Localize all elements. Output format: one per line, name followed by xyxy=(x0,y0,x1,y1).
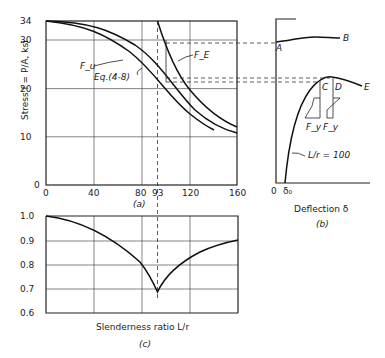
xtick-0: 0 xyxy=(43,188,49,198)
ctick-1.0: 1.0 xyxy=(20,211,35,221)
panel-b: L/r = 100 A B C D E F_y F_y 0 δ₀ Deflect… xyxy=(271,19,370,229)
slenderness-label: Slenderness ratio L/r xyxy=(96,322,189,332)
fu-curve xyxy=(46,21,237,133)
ab-curve xyxy=(276,37,340,42)
deflection-label: Deflection δ xyxy=(294,204,349,214)
ctick-0.8: 0.8 xyxy=(20,260,35,270)
ytick-34: 34 xyxy=(20,16,32,26)
fy-label-d: F_y xyxy=(323,122,339,132)
fy-label-c: F_y xyxy=(306,122,322,132)
point-b: B xyxy=(343,33,349,43)
ytick-0: 0 xyxy=(34,180,40,190)
point-e: E xyxy=(364,82,370,92)
xtick-93: 93 xyxy=(152,188,163,198)
eq48-label: Eq.(4-8) xyxy=(94,72,130,82)
point-d: D xyxy=(335,82,342,92)
panel-b-caption: (b) xyxy=(316,219,329,229)
ctick-0.9: 0.9 xyxy=(20,236,35,246)
y-axis-label: Stress f = P/A, ksi xyxy=(20,40,30,120)
origin-label: 0 xyxy=(271,186,277,196)
eq48-curve xyxy=(46,21,214,130)
panel-a-caption: (a) xyxy=(133,199,146,209)
ytick-10: 10 xyxy=(20,132,32,142)
xtick-160: 160 xyxy=(229,188,246,198)
delta0-label: δ₀ xyxy=(283,186,293,196)
xtick-120: 120 xyxy=(182,188,199,198)
point-c: C xyxy=(322,82,329,92)
ctick-0.7: 0.7 xyxy=(20,284,34,294)
xtick-80: 80 xyxy=(135,188,147,198)
point-a: A xyxy=(275,43,282,53)
panel-a: F_u Eq.(4-8) F_E 34 30 20 10 0 0 40 80 9… xyxy=(20,16,330,300)
lr-note: L/r = 100 xyxy=(308,150,350,160)
fe-label: F_E xyxy=(194,50,210,60)
xtick-40: 40 xyxy=(88,188,100,198)
panel-c: 1.0 0.9 0.8 0.7 0.6 Slenderness ratio L/… xyxy=(20,211,238,349)
fu-label: F_u xyxy=(80,61,96,71)
panel-c-caption: (c) xyxy=(139,339,151,349)
ctick-0.6: 0.6 xyxy=(20,308,35,318)
column-stability-diagram: F_u Eq.(4-8) F_E 34 30 20 10 0 0 40 80 9… xyxy=(0,0,385,358)
